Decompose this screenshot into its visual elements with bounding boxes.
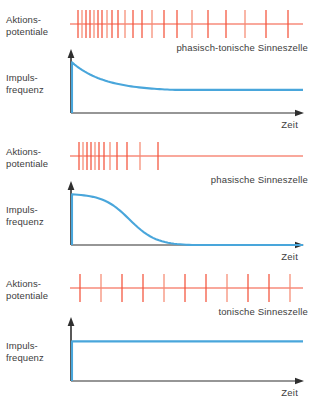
- frequency-plot-2: Zeit: [68, 317, 304, 398]
- x-axis-arrow-icon: [295, 110, 304, 116]
- time-axis-label-0: Zeit: [281, 119, 298, 130]
- impulse-frequency-curve: [72, 62, 303, 113]
- time-axis-label-1: Zeit: [281, 251, 298, 262]
- panel-phasisch-tonisch: Aktions- potentiale Zeit Impuls- frequen…: [0, 0, 317, 132]
- cell-type-caption-0: phasisch-tonische Sinneszelle: [176, 42, 308, 53]
- panel-phasisch: Aktions- potentiale Zeit Impuls- frequen…: [0, 132, 317, 264]
- frequency-row-label-1: Impuls- frequenz: [6, 204, 44, 227]
- spike-train-1: [70, 142, 303, 170]
- impulse-frequency-curve: [72, 194, 303, 245]
- panel-1-graphics: Zeit: [0, 132, 317, 264]
- spike-train-0: [70, 10, 303, 38]
- cell-type-caption-1: phasische Sinneszelle: [211, 174, 308, 185]
- y-axis-arrow-icon: [68, 49, 75, 58]
- frequency-row-label-0: Impuls- frequenz: [6, 72, 44, 95]
- x-axis-arrow-icon: [295, 378, 304, 384]
- impulse-frequency-curve: [72, 341, 303, 381]
- frequency-row-label-2: Impuls- frequenz: [6, 340, 44, 363]
- cell-type-caption-2: tonische Sinneszelle: [218, 306, 308, 317]
- time-axis-label-2: Zeit: [281, 387, 298, 398]
- frequency-plot-1: Zeit: [68, 181, 304, 262]
- frequency-plot-0: Zeit: [68, 49, 304, 130]
- y-axis-arrow-icon: [68, 181, 75, 190]
- panel-0-graphics: Zeit: [0, 0, 317, 132]
- spike-train-2: [70, 274, 303, 302]
- sensory-cell-adaptation-figure: Aktions- potentiale Zeit Impuls- frequen…: [0, 0, 317, 401]
- panel-tonisch: Aktions- potentiale Zeit Impuls- frequen…: [0, 264, 317, 401]
- panel-2-graphics: Zeit: [0, 264, 317, 401]
- y-axis-arrow-icon: [68, 317, 75, 326]
